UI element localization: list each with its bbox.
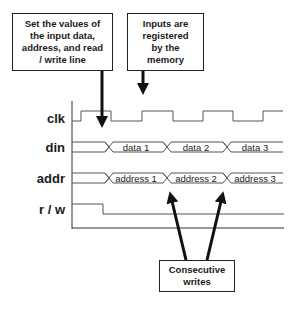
rw-waveform [72, 204, 284, 214]
addr-value-1: address 1 [115, 173, 157, 184]
din-value-3: data 3 [242, 142, 268, 153]
addr-value-2: address 2 [175, 173, 217, 184]
din-value-1: data 1 [123, 142, 149, 153]
din-value-2: data 2 [183, 142, 209, 153]
addr-value-3: address 3 [234, 173, 276, 184]
timing-diagram: data 1 data 2 data 3 address 1 address 2… [0, 0, 299, 310]
clk-waveform [72, 111, 283, 121]
